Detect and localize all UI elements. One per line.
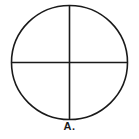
quartered-circle-diagram: [0, 0, 139, 139]
figure-label: A.: [0, 120, 139, 132]
